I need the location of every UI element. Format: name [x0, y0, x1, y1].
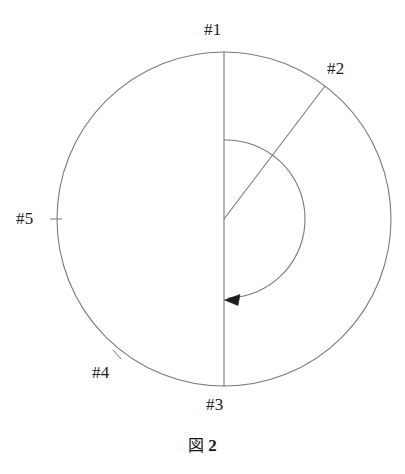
label-point-3: #3: [206, 396, 223, 413]
figure-caption: 図2: [0, 437, 405, 454]
label-point-5: #5: [16, 210, 33, 227]
rotation-arrow-head: [225, 295, 241, 306]
label-point-1: #1: [204, 21, 221, 38]
label-point-2: #2: [327, 60, 344, 77]
radial-line-to-point-2: [224, 86, 325, 219]
rotation-arc: [224, 140, 305, 298]
caption-figure-symbol: 図: [188, 436, 204, 455]
label-point-4: #4: [92, 364, 109, 381]
caption-figure-number: 2: [208, 436, 217, 455]
tick-mark-point-4: [113, 350, 121, 359]
figure-page: #1 #2 #5 #4 #3 図2: [0, 0, 405, 474]
